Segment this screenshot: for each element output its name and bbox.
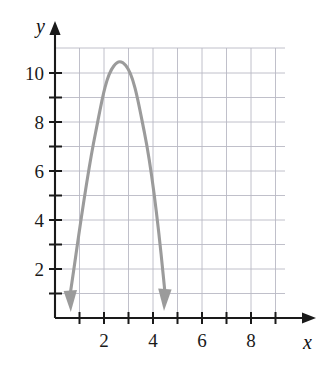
- y-axis-label: y: [36, 16, 45, 36]
- y-tick-label-6: 6: [35, 162, 45, 181]
- y-tick-label-2: 2: [35, 260, 45, 279]
- right-arrowhead-shape: [158, 289, 171, 312]
- grid-vertical: [80, 48, 276, 318]
- x-axis-label: x: [303, 332, 312, 352]
- x-tick-label-4: 4: [148, 331, 158, 350]
- parabola-plot: [0, 0, 334, 380]
- y-tick-label-10: 10: [25, 64, 44, 83]
- y-tick-label-4: 4: [35, 211, 45, 230]
- y-axis: [49, 21, 60, 318]
- x-axis: [55, 312, 316, 323]
- left-arrowhead-shape: [64, 290, 77, 312]
- x-tick-label-6: 6: [197, 331, 207, 350]
- x-tick-label-2: 2: [99, 331, 109, 350]
- y-tick-label-8: 8: [35, 113, 45, 132]
- graph-figure: 10 8 6 4 2 2 4 6 8 y x: [0, 0, 334, 380]
- x-tick-label-8: 8: [246, 331, 256, 350]
